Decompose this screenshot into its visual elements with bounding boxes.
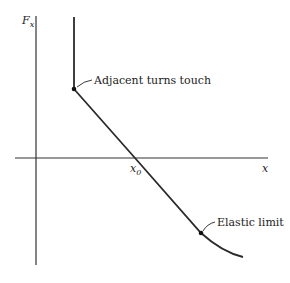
adjacent-turns-leader	[77, 80, 92, 87]
y-axis-label: Fx	[21, 14, 35, 29]
x-axis-label: x	[262, 162, 269, 175]
elastic-limit-point	[199, 231, 204, 236]
adjacent-turns-point	[72, 87, 77, 92]
elastic-limit-label: Elastic limit	[217, 216, 284, 229]
elastic-limit-leader	[203, 222, 215, 231]
adjacent-turns-label: Adjacent turns touch	[93, 74, 211, 87]
force-displacement-diagram: Fx x x0 Adjacent turns touch Elastic lim…	[0, 0, 290, 283]
